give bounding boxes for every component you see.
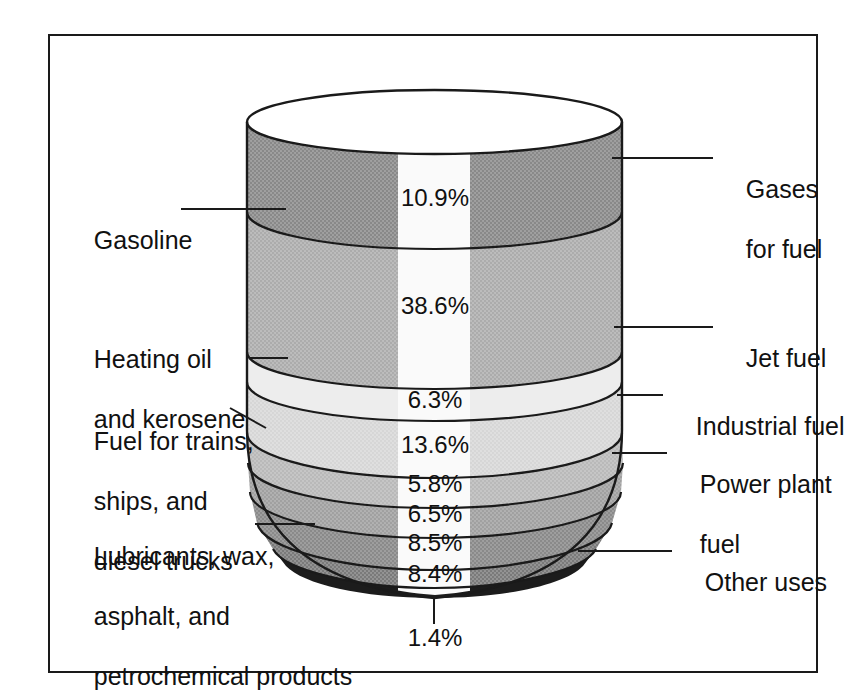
- label-lubricants-line3: petrochemical products: [94, 662, 352, 690]
- value-gases: 10.9%: [374, 186, 496, 210]
- label-power-plant-line1: Power plant: [700, 470, 832, 498]
- barrel-top-ellipse: [247, 90, 622, 154]
- value-heating: 13.6%: [374, 433, 496, 457]
- value-lubricants: 8.4%: [374, 562, 496, 586]
- value-power: 8.5%: [374, 531, 496, 555]
- label-heating-oil-line1: Heating oil: [94, 345, 212, 373]
- barrel-diagram: Gases for fuel Jet fuel Industrial fuel …: [0, 0, 856, 698]
- value-trains: 6.5%: [374, 502, 496, 526]
- label-other-uses: Other uses: [677, 537, 827, 627]
- label-other-uses-text: Other uses: [705, 568, 827, 596]
- label-lubricants-line2: asphalt, and: [94, 602, 230, 630]
- value-other: 1.4%: [374, 626, 496, 650]
- label-lubricants-line1: Lubricants, wax,: [94, 542, 275, 570]
- label-gasoline: Gasoline: [66, 195, 192, 285]
- label-jet-fuel-text: Jet fuel: [746, 344, 827, 372]
- label-gases-line1: Gases: [746, 175, 818, 203]
- label-gases-line2: for fuel: [746, 235, 822, 263]
- label-gases-for-fuel: Gases for fuel: [718, 144, 822, 294]
- label-lubricants: Lubricants, wax, asphalt, and petrochemi…: [66, 511, 352, 698]
- value-gasoline: 38.6%: [374, 294, 496, 318]
- value-industrial: 5.8%: [374, 472, 496, 496]
- label-fuel-trains-line1: Fuel for trains,: [94, 427, 254, 455]
- value-jet: 6.3%: [374, 388, 496, 412]
- label-gasoline-text: Gasoline: [94, 226, 193, 254]
- label-industrial-fuel-text: Industrial fuel: [696, 412, 845, 440]
